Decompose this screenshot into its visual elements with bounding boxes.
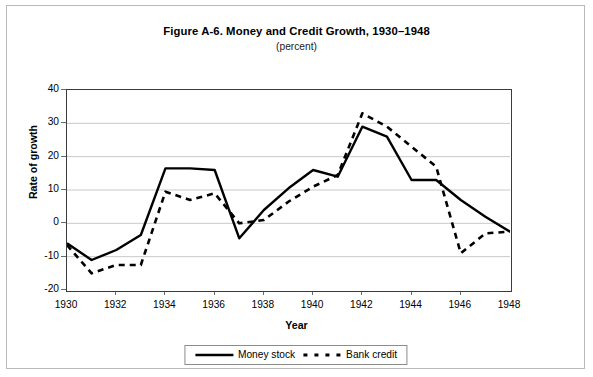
y-tick-label: 40 (25, 84, 59, 94)
series-line-bank-credit (67, 113, 510, 273)
legend-swatch-dashed (302, 351, 342, 359)
y-tick-label: 20 (25, 151, 59, 161)
x-axis-title: Year (7, 319, 586, 331)
chart-subtitle: (percent) (7, 40, 586, 54)
series-lines (67, 113, 510, 273)
y-tick-label: 30 (25, 117, 59, 127)
figure-container: Figure A-6. Money and Credit Growth, 193… (6, 5, 585, 369)
legend-label: Bank credit (346, 349, 397, 360)
y-tick-label: 0 (25, 217, 59, 227)
x-tick-label: 1942 (339, 299, 383, 310)
legend-swatch-solid (194, 351, 234, 359)
legend-label: Money stock (238, 349, 295, 360)
x-tick-label: 1940 (290, 299, 334, 310)
y-axis-title: Rate of growth (27, 87, 39, 237)
y-tick-label: 10 (25, 184, 59, 194)
x-tick-label: 1930 (44, 299, 88, 310)
legend-item-bank-credit[interactable]: Bank credit (302, 349, 397, 360)
gridlines (67, 123, 510, 256)
y-tick-label: -20 (25, 284, 59, 294)
legend-item-money-stock[interactable]: Money stock (194, 349, 295, 360)
x-tick-label: 1948 (487, 299, 531, 310)
y-tick-label: -10 (25, 251, 59, 261)
x-tick-label: 1932 (93, 299, 137, 310)
x-tick-label: 1936 (192, 299, 236, 310)
chart-title: Figure A-6. Money and Credit Growth, 193… (7, 24, 586, 38)
x-tick-label: 1934 (142, 299, 186, 310)
x-tick-label: 1946 (438, 299, 482, 310)
plot-area (66, 89, 512, 292)
x-tick-label: 1944 (389, 299, 433, 310)
x-tick-label: 1938 (241, 299, 285, 310)
title-block: Figure A-6. Money and Credit Growth, 193… (7, 24, 586, 54)
plot-svg (67, 90, 510, 290)
chart-legend: Money stockBank credit (184, 345, 407, 365)
